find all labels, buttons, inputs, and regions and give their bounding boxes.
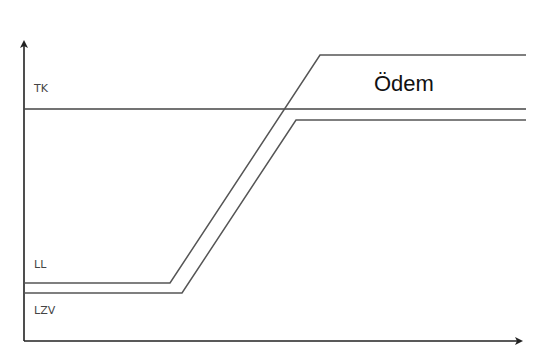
lzv-label: LZV [34, 304, 56, 317]
ll-label: LL [34, 258, 47, 271]
ll-lower-line [24, 120, 526, 293]
tk-label: TK [33, 82, 49, 95]
diagram-canvas: TK LL LZV Ödem [0, 0, 546, 348]
ll-upper-line [24, 55, 526, 283]
odem-label: Ödem [374, 71, 434, 96]
